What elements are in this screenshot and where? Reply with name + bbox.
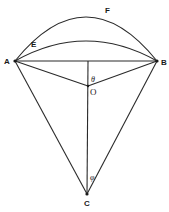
arc-F [15, 17, 157, 61]
point-O [87, 85, 89, 87]
label-O: O [90, 87, 97, 97]
label-phi: φ [90, 173, 95, 182]
label-theta: θ [91, 75, 95, 84]
label-B: B [161, 58, 167, 67]
segment-BO [88, 61, 157, 86]
segment-AC [15, 61, 87, 194]
label-E: E [31, 40, 37, 49]
label-C: C [84, 199, 90, 208]
point-A [13, 59, 16, 62]
label-A: A [4, 57, 10, 66]
label-F: F [105, 6, 110, 15]
point-B [155, 59, 158, 62]
geometry-diagram: A B O C E F θ φ [0, 0, 169, 212]
segment-BC [87, 61, 157, 194]
point-C [85, 192, 88, 195]
segment-vertical-axis [87, 61, 88, 194]
